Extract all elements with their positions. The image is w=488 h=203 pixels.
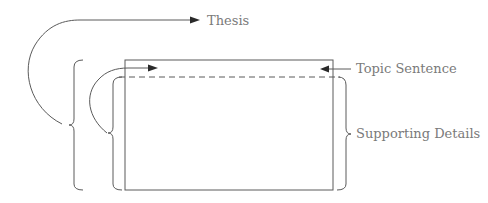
right-brace bbox=[337, 77, 351, 190]
topic-sentence-label: Topic Sentence bbox=[356, 61, 457, 76]
paragraph-structure-diagram: Thesis Topic Sentence Supporting Details bbox=[0, 0, 488, 203]
inner-left-brace bbox=[108, 77, 122, 190]
thesis-label: Thesis bbox=[207, 13, 249, 28]
outer-left-brace bbox=[69, 60, 83, 190]
paragraph-box bbox=[125, 60, 333, 190]
thesis-arrow-line bbox=[28, 20, 196, 124]
topic-arrow-line bbox=[90, 68, 153, 133]
topic-arrowhead bbox=[148, 65, 158, 72]
supporting-details-label: Supporting Details bbox=[356, 126, 480, 141]
topic-sentence-pointer-arrowhead bbox=[320, 66, 329, 73]
thesis-arrowhead bbox=[190, 17, 200, 24]
